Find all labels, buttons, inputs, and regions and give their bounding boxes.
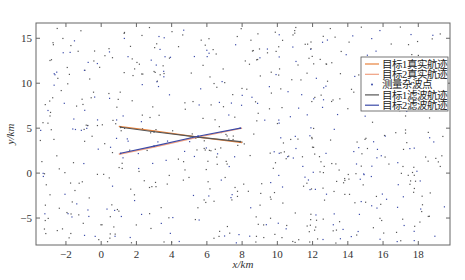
- x-tick-label: 2: [134, 248, 140, 260]
- legend-label: 目标2滤波航迹: [382, 99, 448, 111]
- legend-label: 目标1真实航迹: [382, 58, 448, 70]
- y-tick-label: 5: [27, 122, 33, 134]
- legend-label: 目标2真实航迹: [382, 68, 448, 80]
- legend: 目标1真实航迹目标2真实航迹测量杂波点目标1滤波航迹目标2滤波航迹: [361, 57, 448, 111]
- x-tick-label: 14: [342, 248, 354, 260]
- x-tick-label: 18: [413, 248, 425, 260]
- x-tick-label: 12: [307, 248, 318, 260]
- x-tick-label: 16: [378, 248, 390, 260]
- y-tick-label: 0: [27, 167, 33, 179]
- y-tick-label: 15: [21, 32, 33, 44]
- legend-label: 目标1滤波航迹: [382, 89, 448, 101]
- plot-frame: [36, 23, 450, 245]
- x-tick-label: 0: [98, 248, 104, 260]
- legend-label: 测量杂波点: [382, 78, 432, 90]
- x-tick-label: −2: [60, 248, 72, 260]
- track-line: [119, 128, 242, 154]
- x-tick-label: 4: [169, 248, 175, 260]
- y-tick-label: 10: [21, 77, 33, 89]
- tracks: [119, 126, 242, 154]
- x-tick-label: 10: [272, 248, 284, 260]
- legend-dot-icon: [371, 84, 373, 86]
- y-tick-label: −5: [20, 212, 32, 224]
- track-plot: −2024681012141618 −5051015 x/km y/km 目标1…: [0, 0, 465, 280]
- x-tick-label: 6: [204, 248, 210, 260]
- x-axis-title: x/km: [232, 258, 254, 270]
- y-axis-title: y/km: [4, 124, 16, 146]
- track-line: [121, 127, 241, 141]
